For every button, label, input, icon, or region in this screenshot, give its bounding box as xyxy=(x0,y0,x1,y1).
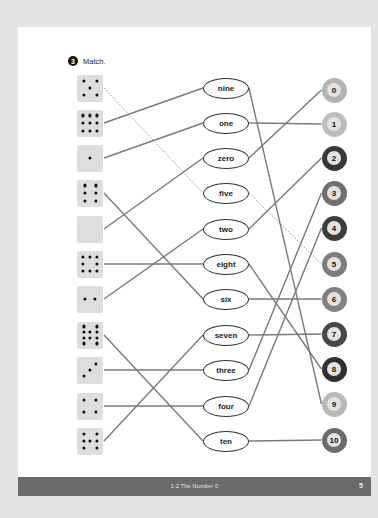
pip-dot xyxy=(83,398,86,401)
word-oval-six[interactable]: six xyxy=(203,289,249,310)
word-oval-one[interactable]: one xyxy=(203,113,249,134)
dice-card[interactable] xyxy=(77,110,103,137)
word-oval-eight[interactable]: eight xyxy=(203,254,249,275)
word-oval-ten[interactable]: ten xyxy=(203,431,249,452)
dice-card[interactable] xyxy=(77,393,103,420)
number-label: 0 xyxy=(327,83,341,97)
pip-dot xyxy=(88,256,91,259)
pip-dot xyxy=(95,93,98,96)
pip-dot xyxy=(83,191,86,194)
dice-card[interactable] xyxy=(77,251,103,278)
word-oval-three[interactable]: three xyxy=(203,360,249,381)
dice-card[interactable] xyxy=(77,357,103,384)
pip-dot xyxy=(94,199,97,202)
number-circle-3[interactable]: 3 xyxy=(322,181,347,206)
number-label: 7 xyxy=(327,327,341,341)
pip-dot xyxy=(95,330,98,333)
pip-dot xyxy=(96,262,99,265)
number-circle-6[interactable]: 6 xyxy=(322,287,347,312)
pip-dot xyxy=(83,374,86,377)
word-oval-seven[interactable]: seven xyxy=(203,325,249,346)
pip-dot xyxy=(88,439,91,442)
number-label: 3 xyxy=(327,186,341,200)
page-footer: 1-2 The Number 0 5 xyxy=(18,477,371,496)
pip-dot xyxy=(95,80,98,83)
pip-dot xyxy=(83,184,86,187)
number-circle-8[interactable]: 8 xyxy=(322,357,347,382)
word-oval-two[interactable]: two xyxy=(203,219,249,240)
pip-dot xyxy=(81,262,84,265)
pip-dot xyxy=(88,86,91,89)
match-line xyxy=(249,193,322,370)
pip-dot xyxy=(81,114,84,117)
pip-dot xyxy=(88,114,91,117)
dice-card[interactable] xyxy=(77,322,103,349)
word-oval-four[interactable]: four xyxy=(203,396,249,417)
pip-dot xyxy=(82,342,85,345)
pip-dot xyxy=(81,269,84,272)
pip-dot xyxy=(82,336,85,339)
number-circle-7[interactable]: 7 xyxy=(322,322,347,347)
match-line xyxy=(249,88,322,404)
number-circle-4[interactable]: 4 xyxy=(322,216,347,241)
pip-dot xyxy=(82,439,85,442)
pip-dot xyxy=(88,269,91,272)
dice-card[interactable] xyxy=(77,286,103,313)
number-circle-9[interactable]: 9 xyxy=(322,392,347,417)
pip-dot xyxy=(88,336,91,339)
pip-dot xyxy=(94,191,97,194)
pip-dot xyxy=(96,114,99,117)
pip-dot xyxy=(96,256,99,259)
number-circle-0[interactable]: 0 xyxy=(322,78,347,103)
footer-title: 1-2 The Number 0 xyxy=(18,483,371,489)
pip-dot xyxy=(94,184,97,187)
word-oval-five[interactable]: five xyxy=(203,183,249,204)
match-line xyxy=(249,334,322,335)
dice-card[interactable] xyxy=(77,75,103,102)
number-label: 8 xyxy=(327,362,341,376)
pip-dot xyxy=(88,368,91,371)
pip-dot xyxy=(95,446,98,449)
pip-dot xyxy=(81,256,84,259)
pip-dot xyxy=(82,330,85,333)
pip-dot xyxy=(96,129,99,132)
match-line xyxy=(104,88,203,123)
number-label: 10 xyxy=(327,433,341,447)
pip-dot xyxy=(94,362,97,365)
pip-dot xyxy=(82,325,85,328)
number-label: 5 xyxy=(327,257,341,271)
pip-dot xyxy=(95,433,98,436)
number-label: 2 xyxy=(327,151,341,165)
pip-dot xyxy=(94,410,97,413)
word-oval-zero[interactable]: zero xyxy=(203,148,249,169)
pip-dot xyxy=(83,297,86,300)
pip-dot xyxy=(88,129,91,132)
match-line xyxy=(104,193,203,299)
number-label: 4 xyxy=(327,221,341,235)
pip-dot xyxy=(95,336,98,339)
pip-dot xyxy=(82,433,85,436)
match-line xyxy=(249,440,322,441)
number-label: 6 xyxy=(327,292,341,306)
number-label: 9 xyxy=(327,397,341,411)
dice-card[interactable] xyxy=(77,428,103,455)
number-circle-2[interactable]: 2 xyxy=(322,146,347,171)
pip-dot xyxy=(88,121,91,124)
dice-card[interactable] xyxy=(77,216,103,243)
number-circle-5[interactable]: 5 xyxy=(322,252,347,277)
number-circle-10[interactable]: 10 xyxy=(322,428,347,453)
pip-dot xyxy=(83,410,86,413)
match-line xyxy=(104,123,203,158)
pip-dot xyxy=(88,156,91,159)
word-oval-nine[interactable]: nine xyxy=(203,78,249,99)
pip-dot xyxy=(95,439,98,442)
pip-dot xyxy=(82,93,85,96)
dice-card[interactable] xyxy=(77,180,103,207)
dice-card[interactable] xyxy=(77,145,103,172)
page-number: 5 xyxy=(359,482,363,489)
pip-dot xyxy=(81,121,84,124)
pip-dot xyxy=(88,331,91,334)
number-circle-1[interactable]: 1 xyxy=(322,112,347,137)
pip-dot xyxy=(83,199,86,202)
pip-dot xyxy=(95,342,98,345)
